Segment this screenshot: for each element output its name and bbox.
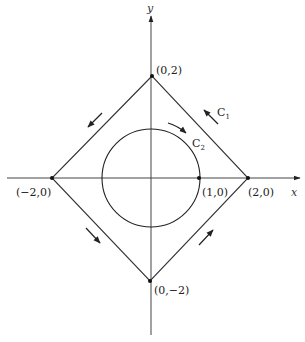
y-axis-label: y: [146, 2, 154, 15]
point-neg2-0: [50, 176, 54, 180]
c1-label: C1: [217, 106, 230, 121]
c1-direction-arrow-lower-left: [86, 228, 100, 243]
point-1-0: [197, 176, 201, 180]
point-label-neg2-0: (−2,0): [16, 186, 51, 199]
point-0-neg2: [148, 279, 152, 283]
c2-direction-arrow: [168, 123, 186, 133]
point-label-0-neg2: (0,−2): [154, 284, 189, 297]
contour-diagram: y x C1 C2 (0,2) (−2,0) (1,0) (2,0) (0,−2…: [0, 0, 305, 342]
c1-direction-arrow-upper-left: [88, 113, 102, 127]
c1-direction-arrow-lower-right: [199, 230, 213, 245]
c1-direction-arrow-upper-right: [204, 110, 218, 124]
c2-label: C2: [192, 137, 205, 152]
x-axis-label: x: [291, 186, 298, 199]
point-label-2-0: (2,0): [248, 186, 274, 199]
point-0-2: [150, 74, 154, 78]
point-label-0-2: (0,2): [156, 64, 182, 77]
point-2-0: [246, 176, 250, 180]
point-label-1-0: (1,0): [202, 186, 228, 199]
